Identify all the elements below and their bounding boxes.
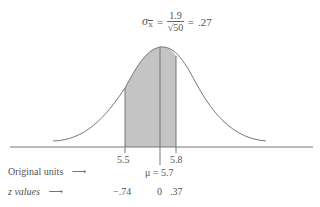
z-tick-upper: .37 (170, 186, 183, 197)
denominator: √50 (168, 22, 184, 33)
z-values-label: z values (8, 186, 40, 197)
shaded-region (125, 47, 176, 147)
mean-label: μ = 5.7 (145, 167, 174, 178)
numerator: 1.9 (167, 10, 184, 22)
formula-result: .27 (198, 16, 212, 28)
z-tick-mean: 0 (157, 186, 162, 197)
original-units-row: Original units ⟶ (8, 166, 86, 177)
fraction: 1.9 √50 (167, 10, 184, 33)
original-units-label: Original units (8, 166, 63, 177)
tick-upper: 5.8 (170, 154, 183, 165)
arrow-icon: ⟶ (72, 166, 86, 177)
tick-lower: 5.5 (117, 154, 130, 165)
z-values-row: z values ⟶ (8, 186, 63, 197)
sigma-subscript: X (148, 21, 153, 29)
standard-error-formula: σX = 1.9 √50 = .27 (142, 10, 212, 33)
arrow-icon: ⟶ (48, 186, 62, 197)
z-tick-lower: −.74 (113, 186, 131, 197)
